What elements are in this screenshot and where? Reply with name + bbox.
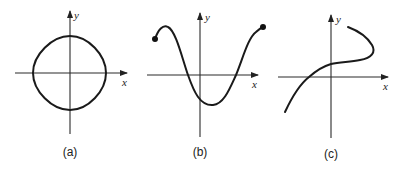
- panel-a: y x (a): [15, 9, 127, 159]
- y-axis-label: y: [204, 11, 210, 23]
- curve: [285, 27, 374, 112]
- x-axis-label: x: [121, 76, 127, 88]
- panel-b: y x (b): [147, 11, 266, 159]
- endpoint-dot-left: [152, 36, 158, 42]
- x-axis-label: x: [251, 78, 257, 90]
- y-axis-label: y: [335, 13, 341, 25]
- panel-caption: (a): [63, 145, 78, 159]
- panel-caption: (c): [324, 147, 338, 161]
- curve: [155, 26, 263, 105]
- panel-caption: (b): [193, 145, 208, 159]
- endpoint-dot-right: [260, 24, 266, 30]
- panel-c: y x (c): [278, 13, 388, 161]
- figure-canvas: y x (a) y x (b) y x (c): [0, 0, 407, 169]
- y-axis-label: y: [73, 9, 79, 21]
- x-axis-label: x: [382, 80, 388, 92]
